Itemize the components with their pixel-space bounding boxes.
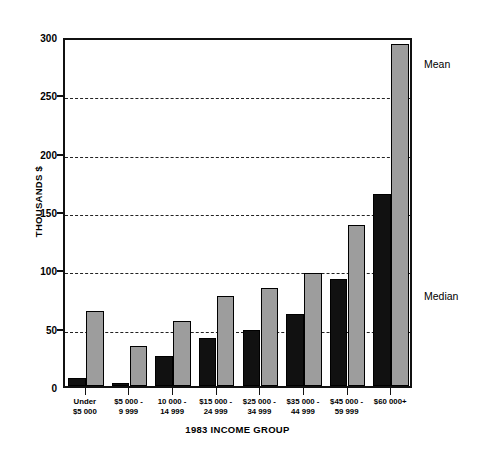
bar-median-7 xyxy=(373,194,391,387)
bar-mean-7 xyxy=(391,44,409,386)
gridline xyxy=(65,215,410,216)
x-axis-tick-mark xyxy=(128,388,129,395)
y-axis-tick-label: 100 xyxy=(40,266,57,277)
bar-median-6 xyxy=(330,279,348,386)
x-category-label-line1: $5 000 - xyxy=(114,397,143,406)
x-category-label-line1: 10 000 - xyxy=(158,397,187,406)
x-axis-title: 1983 INCOME GROUP xyxy=(63,424,412,435)
plot-area xyxy=(65,40,410,386)
y-axis-tick-label: 200 xyxy=(40,149,57,160)
bar-median-5 xyxy=(286,314,304,386)
gridline xyxy=(65,157,410,158)
bar-mean-4 xyxy=(261,288,279,386)
y-axis-tick-label: 150 xyxy=(40,208,57,219)
bar-mean-5 xyxy=(304,273,322,386)
bar-mean-2 xyxy=(173,321,191,386)
x-category-label-line1: $25 000 - xyxy=(243,397,276,406)
bar-mean-0 xyxy=(86,311,104,386)
x-category-label-line1: $35 000 - xyxy=(286,397,319,406)
x-category-label-line1: Under xyxy=(74,397,97,406)
bar-mean-6 xyxy=(348,225,366,386)
bar-median-0 xyxy=(68,378,86,386)
x-axis-tick-mark xyxy=(347,388,348,395)
y-axis-tick-label: 300 xyxy=(40,33,57,44)
x-axis-tick-mark xyxy=(172,388,173,395)
bar-median-1 xyxy=(112,383,130,387)
bar-median-4 xyxy=(243,330,261,386)
bar-chart: THOUSANDS $ 050100150200250300 Under$5 0… xyxy=(0,0,494,454)
bar-mean-1 xyxy=(130,346,148,386)
x-axis-tick-mark xyxy=(259,388,260,395)
bar-median-3 xyxy=(199,338,217,386)
bar-median-2 xyxy=(155,356,173,386)
x-axis-tick-mark xyxy=(303,388,304,395)
series-annotation-median: Median xyxy=(424,290,458,302)
y-axis-tick-label: 0 xyxy=(51,383,57,394)
y-axis-tick-label: 50 xyxy=(46,324,57,335)
bar-mean-3 xyxy=(217,296,235,386)
x-category-label-line1: $45 000 - xyxy=(330,397,363,406)
series-annotation-mean: Mean xyxy=(424,58,450,70)
x-axis-tick-mark xyxy=(390,388,391,395)
x-axis-tick-mark xyxy=(85,388,86,395)
x-category-label-line1: $60 000+ xyxy=(374,397,407,406)
x-category-label-line2: 59 999 xyxy=(321,407,373,417)
x-axis-tick-mark xyxy=(216,388,217,395)
y-axis-tick-label: 250 xyxy=(40,91,57,102)
plot-frame xyxy=(63,38,412,388)
x-category-label-line1: $15 000 - xyxy=(199,397,232,406)
gridline xyxy=(65,98,410,99)
x-category-label: $60 000+ xyxy=(364,397,416,407)
